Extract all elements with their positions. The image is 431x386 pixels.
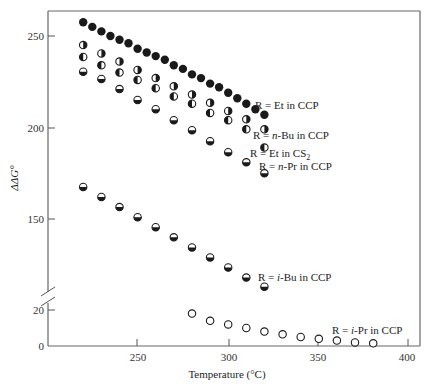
- data-point: [152, 85, 159, 92]
- data-point: [133, 45, 141, 53]
- data-point: [124, 39, 132, 47]
- data-point: [370, 340, 377, 347]
- series-label-npr-ccp: R = n-Pr in CCP: [259, 160, 332, 172]
- data-point: [225, 117, 232, 124]
- y-tick-label: 200: [28, 122, 45, 134]
- data-point: [206, 138, 213, 145]
- data-point: [188, 70, 196, 78]
- y-axis-title: ΔΔG°: [8, 165, 20, 192]
- y-tick-label: 20: [33, 304, 45, 316]
- data-point: [116, 58, 123, 65]
- data-point: [143, 48, 151, 56]
- data-point: [152, 224, 159, 231]
- data-markers: [79, 18, 377, 347]
- data-point: [197, 74, 205, 82]
- data-point: [243, 324, 250, 331]
- data-point: [243, 274, 250, 281]
- x-tick-label: 250: [130, 351, 147, 363]
- data-point: [134, 96, 141, 103]
- data-point: [188, 310, 195, 317]
- data-point: [170, 61, 178, 69]
- data-point: [98, 50, 105, 57]
- plot-frame: [41, 11, 420, 346]
- data-point: [134, 76, 141, 83]
- data-point: [170, 234, 177, 241]
- data-point: [225, 149, 232, 156]
- data-point: [261, 328, 268, 335]
- x-tick-label: 300: [221, 351, 238, 363]
- series-label-ipr-ccp: R = i-Pr in CCP: [332, 324, 402, 336]
- data-point: [98, 75, 105, 82]
- data-point: [170, 117, 177, 124]
- data-point: [106, 32, 114, 40]
- data-point: [170, 83, 177, 90]
- data-point: [98, 193, 105, 200]
- data-point: [297, 333, 304, 340]
- data-point: [206, 99, 213, 106]
- data-point: [161, 56, 169, 64]
- data-point: [188, 100, 195, 107]
- data-point: [243, 116, 250, 123]
- data-point: [97, 27, 105, 35]
- data-point: [116, 69, 123, 76]
- data-point: [80, 53, 87, 60]
- data-point: [152, 74, 159, 81]
- data-point: [225, 264, 232, 271]
- y-ticks: 250 200 150 20 0: [28, 30, 56, 352]
- data-point: [188, 127, 195, 134]
- data-point: [88, 23, 96, 31]
- data-point: [116, 85, 123, 92]
- data-point: [225, 107, 232, 114]
- data-point: [279, 331, 286, 338]
- data-point: [243, 159, 250, 166]
- data-point: [116, 203, 123, 210]
- data-point: [242, 100, 250, 108]
- data-point: [206, 79, 214, 87]
- data-point: [215, 83, 223, 91]
- x-tick-label: 400: [399, 351, 416, 363]
- data-point: [233, 94, 241, 102]
- series-label-ibu-ccp: R = i-Bu in CCP: [258, 271, 331, 283]
- data-point: [80, 183, 87, 190]
- data-point: [80, 41, 87, 48]
- data-point: [98, 62, 105, 69]
- series-labels: R = Et in CCP R = n-Bu in CCP R = Et in …: [250, 99, 402, 336]
- y-tick-label: 250: [28, 30, 45, 42]
- data-point: [206, 317, 213, 324]
- data-point: [260, 111, 268, 119]
- series-label-nbu-ccp: R = n-Bu in CCP: [253, 129, 329, 141]
- data-point: [243, 126, 250, 133]
- data-point: [188, 91, 195, 98]
- data-point: [206, 254, 213, 261]
- data-point: [261, 283, 268, 290]
- data-point: [134, 214, 141, 221]
- data-point: [333, 337, 340, 344]
- data-point: [134, 66, 141, 73]
- chart-canvas: 250 200 150 20 0 250 300 350 400 Tempera…: [0, 0, 431, 386]
- data-point: [170, 93, 177, 100]
- x-tick-label: 350: [310, 351, 327, 363]
- data-point: [179, 65, 187, 73]
- data-point: [80, 68, 87, 75]
- data-point: [315, 335, 322, 342]
- data-point: [351, 339, 358, 346]
- data-point: [152, 106, 159, 113]
- series-label-et-ccp: R = Et in CCP: [255, 99, 319, 111]
- data-point: [79, 18, 87, 26]
- data-point: [225, 321, 232, 328]
- data-point: [188, 244, 195, 251]
- y-tick-label: 150: [28, 213, 45, 225]
- y-tick-label: 0: [39, 340, 45, 352]
- data-point: [115, 36, 123, 44]
- x-axis-title: Temperature (°C): [188, 368, 266, 381]
- data-point: [206, 109, 213, 116]
- data-point: [224, 89, 232, 97]
- data-point: [152, 52, 160, 60]
